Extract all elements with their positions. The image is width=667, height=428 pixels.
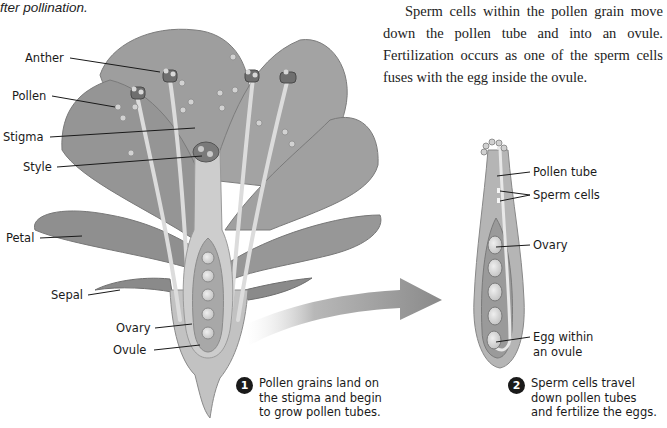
label-sepal: Sepal	[51, 288, 83, 302]
label-egg-line1: Egg within	[533, 330, 593, 344]
pollination-diagram	[0, 0, 667, 428]
label-pistil-ovary: Ovary	[533, 238, 567, 252]
label-stigma: Stigma	[3, 130, 44, 144]
label-sperm-cells: Sperm cells	[533, 188, 600, 202]
label-ovule: Ovule	[113, 343, 146, 357]
step-1-text: Pollen grains land on the stigma and beg…	[259, 376, 382, 420]
label-anther: Anther	[25, 51, 64, 65]
label-pollen: Pollen	[12, 89, 46, 103]
label-egg-line2: an ovule	[533, 345, 582, 359]
label-style: Style	[23, 160, 52, 174]
step-1: 1 Pollen grains land on the stigma and b…	[236, 376, 382, 420]
label-ovary: Ovary	[116, 321, 150, 335]
step-2-number: 2	[508, 377, 525, 394]
step-1-number: 1	[236, 377, 253, 394]
step-2: 2 Sperm cells travel down pollen tubes a…	[508, 376, 657, 420]
label-pollen-tube: Pollen tube	[533, 165, 597, 179]
flower-cross-section	[34, 29, 380, 418]
label-petal: Petal	[6, 231, 34, 245]
step-2-text: Sperm cells travel down pollen tubes and…	[531, 376, 657, 420]
